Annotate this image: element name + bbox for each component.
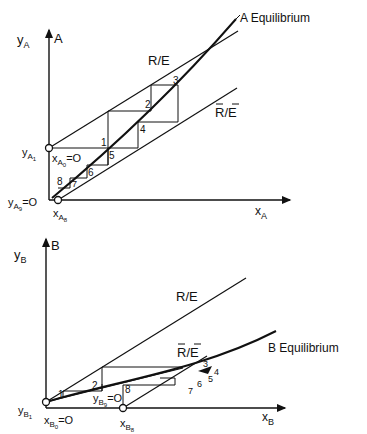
point-ya1 <box>46 145 53 152</box>
step-3-b: 3 <box>203 359 208 369</box>
step-3-a: 3 <box>173 75 179 86</box>
xb0-label: xB0=O <box>44 414 74 430</box>
panel-a: A yA xA R/E R/E A Equilibrium yA1 xA0=O … <box>8 11 310 223</box>
step-5-b: 5 <box>208 374 213 384</box>
step-6-a: 6 <box>88 167 94 178</box>
xb8-label: xB8 <box>120 417 135 433</box>
step-6-b: 6 <box>197 379 202 389</box>
point-xb8 <box>120 405 127 412</box>
xa0-label: xA0=O <box>52 152 82 168</box>
re-bar-label-a: R/E <box>215 105 237 120</box>
step-2-b: 2 <box>92 380 98 391</box>
yb9-label: yB9=O <box>93 392 123 408</box>
equilibrium-label-b: B Equilibrium <box>268 341 339 355</box>
step-1-b: 1 <box>58 389 64 400</box>
step-4-a: 4 <box>140 124 146 135</box>
point-yb1 <box>43 399 50 406</box>
x-axis-label-b: xB <box>262 410 274 427</box>
re-label-a: R/E <box>148 53 170 68</box>
equilibrium-curve-a <box>52 19 236 198</box>
step-7-b: 7 <box>188 386 193 396</box>
step-7-a: 7 <box>72 179 77 189</box>
equilibrium-label-a: A Equilibrium <box>240 11 310 25</box>
y-axis-label-a: yA <box>17 32 30 50</box>
xa8-label: xA8 <box>53 207 68 223</box>
iteration-path-b <box>63 367 183 408</box>
x-axis-label-a: xA <box>255 204 267 221</box>
panel-b: B yB xB R/E R/E B Equilibrium yB1 xB0=O … <box>14 238 339 433</box>
step-4-b: 4 <box>214 367 219 377</box>
step-5-a: 5 <box>109 150 115 161</box>
step-8-b: 8 <box>125 384 131 395</box>
re-bar-label-b: R/E <box>177 345 199 360</box>
ya1-label: yA1 <box>22 146 37 162</box>
yb1-label: yB1 <box>18 404 33 420</box>
re-label-b: R/E <box>176 289 198 304</box>
point-xa8 <box>55 197 62 204</box>
step-1-a: 1 <box>101 137 107 148</box>
axis-title-b: B <box>51 238 60 253</box>
re-line-b <box>46 278 246 402</box>
step-2-a: 2 <box>145 99 151 110</box>
diagram-canvas: A yA xA R/E R/E A Equilibrium yA1 xA0=O … <box>0 0 367 434</box>
ya9-label: yA9=O <box>8 196 38 212</box>
y-axis-label-b: yB <box>14 247 27 265</box>
axis-title-a: A <box>54 31 63 46</box>
step-8-a: 8 <box>57 176 63 187</box>
